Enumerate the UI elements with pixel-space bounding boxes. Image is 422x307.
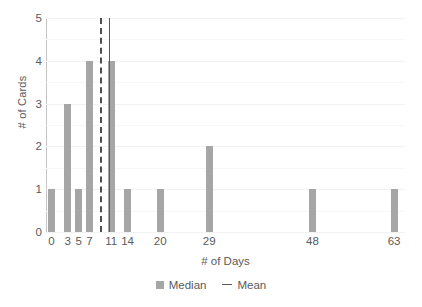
plot-area	[46, 18, 405, 232]
x-tick-label: 63	[374, 235, 414, 247]
bar	[86, 61, 93, 232]
x-axis-title: # of Days	[46, 255, 405, 267]
legend-item-median[interactable]: Median	[156, 279, 207, 291]
median-line	[100, 18, 102, 232]
chart-legend: MedianMean	[0, 279, 422, 291]
legend-item-mean[interactable]: Mean	[222, 279, 266, 291]
bar	[48, 189, 55, 232]
bar	[309, 189, 316, 232]
bar	[64, 104, 71, 232]
y-tick-label: 4	[22, 56, 42, 66]
y-axis-tick-labels: 012345	[22, 18, 42, 232]
legend-square-icon	[156, 281, 164, 289]
y-tick-label: 5	[22, 13, 42, 23]
histogram-chart: # of Cards 012345 0357111420294863 # of …	[0, 0, 422, 307]
bar	[206, 146, 213, 232]
legend-dash-icon	[222, 284, 232, 285]
bar	[157, 189, 164, 232]
bar	[124, 189, 131, 232]
legend-label: Median	[169, 279, 207, 291]
x-tick-label: 48	[293, 235, 333, 247]
legend-label: Mean	[237, 279, 266, 291]
y-tick-label: 2	[22, 141, 42, 151]
gridline-major	[46, 232, 405, 233]
mean-line	[109, 18, 110, 232]
x-tick-label: 20	[140, 235, 180, 247]
y-tick-label: 3	[22, 99, 42, 109]
x-axis-tick-labels: 0357111420294863	[46, 235, 405, 251]
bar	[75, 189, 82, 232]
bar	[391, 189, 398, 232]
y-tick-label: 1	[22, 184, 42, 194]
x-tick-label: 29	[189, 235, 229, 247]
